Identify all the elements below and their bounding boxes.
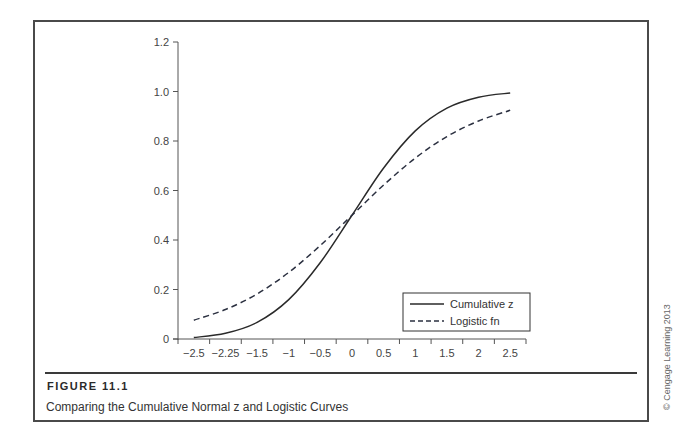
- copyright-credit: © Cengage Learning 2013: [662, 304, 672, 410]
- x-tick-label: 0.5: [376, 347, 391, 359]
- legend: Cumulative z Logistic fn: [403, 293, 530, 331]
- y-tick-label: 1.2: [154, 36, 169, 48]
- logistic-fn-line: [194, 110, 510, 320]
- figure-label: FIGURE 11.1: [47, 380, 129, 392]
- y-tick-label: 0: [163, 333, 169, 345]
- x-tick-label: 0: [349, 347, 355, 359]
- y-tick-label: 0.2: [154, 284, 169, 296]
- y-tick-label: 0.6: [154, 185, 169, 197]
- x-tick-label: 2: [475, 347, 481, 359]
- y-tick-label: 0.8: [154, 135, 169, 147]
- legend-label-logistic-fn: Logistic fn: [450, 315, 500, 327]
- x-tick-label: −1.5: [246, 347, 268, 359]
- chart: 00.20.40.60.81.01.2−2.5−2.25−1.5−1−0.500…: [0, 0, 686, 444]
- x-tick-label: −0.5: [310, 347, 332, 359]
- x-tick-label: 1.5: [439, 347, 454, 359]
- x-tick-label: −2.25: [212, 347, 240, 359]
- figure-caption: Comparing the Cumulative Normal z and Lo…: [46, 400, 348, 414]
- x-tick-label: 2.5: [503, 347, 518, 359]
- legend-label-cumulative-z: Cumulative z: [450, 298, 514, 310]
- y-tick-label: 1.0: [154, 86, 169, 98]
- x-tick-label: −1: [282, 347, 295, 359]
- y-tick-label: 0.4: [154, 234, 169, 246]
- caption-rule: [45, 372, 637, 374]
- x-tick-label: 1: [412, 347, 418, 359]
- x-tick-label: −2.5: [183, 347, 205, 359]
